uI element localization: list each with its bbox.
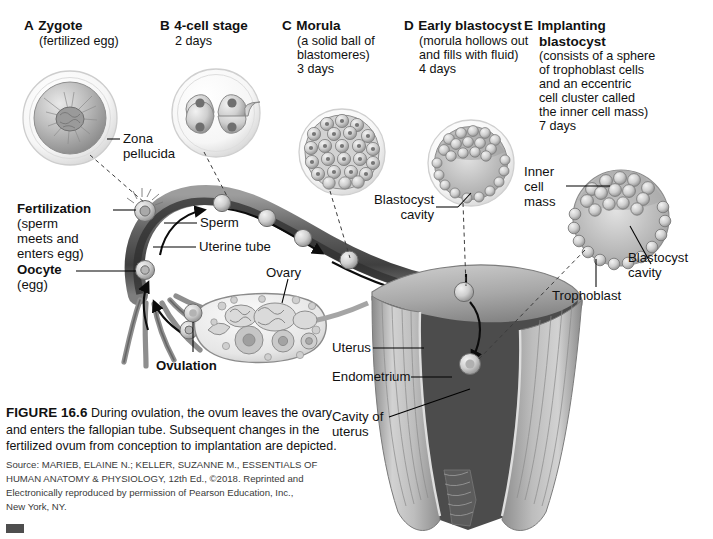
stage-d-sub-0: (morula hollows out [419,34,528,48]
label-zona-pellucida: Zona pellucida [123,131,175,161]
source-line-2: Electronically reproduced by permission … [6,486,354,500]
stage-e-title2: blastocyst [539,34,655,49]
figure-number: FIGURE 16.6 [6,405,87,420]
stage-a-zygote-diagram [23,71,117,165]
stage-e-sub-3: cell cluster called [539,91,655,105]
label-ovulation: Ovulation [156,358,217,373]
stage-e-sub-0: (consists of a sphere [539,49,655,63]
stage-c-letter: C [282,18,292,33]
stage-c-title: Morula [296,18,340,33]
fertilization-title: Fertilization [17,201,91,216]
blastocyst-cavity-mid-line-2: cavity [374,207,434,222]
source-line-3: New York, NY. [6,500,354,514]
stage-heading-a: A Zygote (fertilized egg) [24,16,119,48]
stage-heading-e: E Implanting blastocyst (consists of a s… [524,16,655,133]
caption-main-text: FIGURE 16.6 During ovulation, the ovum l… [6,404,354,455]
caption-source: Source: MARIEB, ELAINE N.; KELLER, SUZAN… [6,458,354,514]
fertilization-sub-2: enters egg) [17,246,91,261]
stage-c-sub-1: blastomeres) [297,48,375,62]
label-uterus: Uterus [332,340,371,355]
label-fertilization: Fertilization (sperm meets and enters eg… [17,201,91,261]
source-line-0: Source: MARIEB, ELAINE N.; KELLER, SUZAN… [6,458,354,472]
stage-e-letter: E [524,18,533,33]
oocyte-title: Oocyte [17,262,62,277]
stage-d-days: 4 days [419,62,528,76]
stage-b-4cell-diagram [172,69,260,157]
stage-a-sub-0: (fertilized egg) [39,34,119,48]
uterus-diagram [372,265,582,530]
fertilization-sub-0: (sperm [17,216,91,231]
stage-d-title: Early blastocyst [418,18,522,33]
label-blastocyst-cavity-middle: Blastocyst cavity [374,192,434,222]
figure-16-6: A Zygote (fertilized egg) B 4-cell stage… [0,0,713,539]
ovulated-oocyte [184,304,202,322]
inner-cell-mass-line-2: cell [524,179,556,194]
stage-c-days: 3 days [297,62,375,76]
stage-e-days: 7 days [539,119,655,133]
fertilization-sub-1: meets and [17,231,91,246]
stage-d-sub-1: and fills with fluid) [419,48,528,62]
stage-a-title: Zygote [38,18,82,33]
label-uterine-tube: Uterine tube [199,239,271,254]
figure-caption: FIGURE 16.6 During ovulation, the ovum l… [6,404,354,514]
stage-a-letter: A [24,18,34,33]
label-oocyte: Oocyte (egg) [17,262,62,292]
source-line-1: HUMAN ANATOMY & PHYSIOLOGY, 12th Ed., ©2… [6,472,354,486]
stage-heading-c: C Morula (a solid ball of blastomeres) 3… [282,16,375,76]
inner-cell-mass-line-1: Inner [524,164,556,179]
stage-heading-d: D Early blastocyst (morula hollows out a… [404,16,528,76]
blastocyst-cavity-right-line-2: cavity [628,265,688,280]
page-corner-marker [6,524,24,533]
stage-d-letter: D [404,18,414,33]
stage-b-letter: B [160,18,170,33]
label-ovary: Ovary [266,265,301,280]
stage-c-morula-diagram [299,109,385,195]
stage-e-sub-2: and an eccentric [539,77,655,91]
label-blastocyst-cavity-right: Blastocyst cavity [628,250,688,280]
stage-c-sub-0: (a solid ball of [297,34,375,48]
label-endometrium: Endometrium [332,369,410,384]
stage-e-sub-4: the inner cell mass) [539,105,655,119]
stage-b-title: 4-cell stage [174,18,248,33]
label-inner-cell-mass: Inner cell mass [524,164,556,209]
stage-e-sub-1: of trophoblast cells [539,63,655,77]
zona-pellucida-line-1: Zona [123,131,175,146]
blastocyst-cavity-mid-line-1: Blastocyst [374,192,434,207]
label-sperm: Sperm [200,215,239,230]
stage-e-title: Implanting [537,18,605,33]
stage-heading-b: B 4-cell stage 2 days [160,16,248,48]
blastocyst-cavity-right-line-1: Blastocyst [628,250,688,265]
label-trophoblast: Trophoblast [552,288,621,303]
oocyte-sub: (egg) [17,277,62,292]
zona-pellucida-line-2: pellucida [123,146,175,161]
stage-b-days: 2 days [175,34,248,48]
inner-cell-mass-line-3: mass [524,194,556,209]
